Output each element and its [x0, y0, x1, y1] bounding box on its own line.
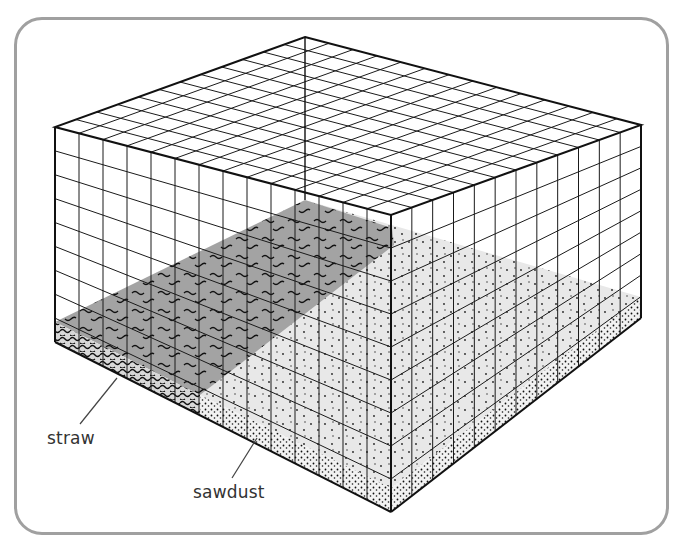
cage-diagram — [0, 0, 686, 547]
sawdust-leader-line — [232, 438, 257, 478]
straw-label: straw — [47, 428, 95, 448]
straw-leader-line — [80, 378, 117, 424]
top-mesh — [76, 43, 620, 208]
sawdust-label: sawdust — [193, 482, 265, 502]
